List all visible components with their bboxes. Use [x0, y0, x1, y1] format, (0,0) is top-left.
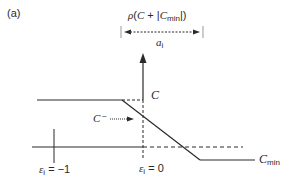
width-label: ai: [156, 36, 163, 50]
panel-label: (a): [7, 7, 20, 19]
eps-neg1-value: = −1: [45, 163, 70, 175]
slope-line: [122, 100, 200, 160]
c-minus-label: C⁻: [93, 112, 106, 125]
eps-0-label: εi = 0: [139, 162, 164, 176]
width-arrow-left-head: [124, 30, 131, 35]
axis-arrowhead-icon: [140, 53, 147, 63]
formula-cmin: C: [160, 9, 167, 21]
cmin-label: Cmin: [259, 152, 280, 167]
width-arrow-right-head: [193, 30, 200, 35]
cmin-label-sub: min: [267, 158, 280, 167]
width-label-sub: i: [162, 41, 164, 50]
diagram-canvas: [0, 0, 296, 184]
eps-neg1-label: εi = −1: [39, 163, 70, 177]
top-formula: ρ(C + |Cmin|): [128, 9, 186, 23]
formula-plus: +: [144, 9, 157, 21]
formula-cmin-sub: min: [167, 14, 180, 23]
c-label: C: [151, 88, 159, 103]
paren-close: ): [183, 9, 187, 21]
eps-0-value: = 0: [145, 162, 164, 174]
cmin-label-base: C: [259, 152, 267, 166]
c-minus-arrowhead-icon: [127, 117, 134, 122]
